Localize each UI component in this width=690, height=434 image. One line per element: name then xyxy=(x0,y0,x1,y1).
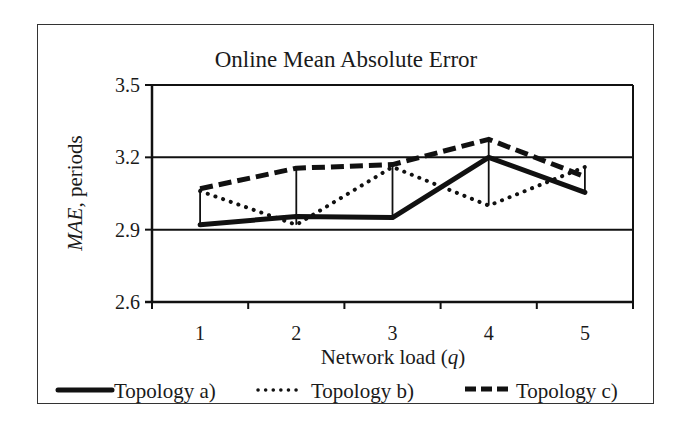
legend-label: Topology b) xyxy=(311,379,414,403)
y-axis-tick-labels: 2.62.93.23.5 xyxy=(115,74,140,313)
x-tick-label: 3 xyxy=(388,322,398,344)
legend: Topology a) Topology b) Topology c) xyxy=(58,379,618,403)
x-axis-label-variable: q xyxy=(448,345,459,369)
legend-item-topology-c: Topology c) xyxy=(465,379,618,403)
axes xyxy=(145,84,633,309)
x-axis-tick-labels: 12345 xyxy=(195,322,590,344)
x-tick-label: 1 xyxy=(195,322,205,344)
x-axis-label-prefix: Network load ( xyxy=(321,345,448,369)
y-tick-label: 3.5 xyxy=(115,74,140,96)
legend-item-topology-a: Topology a) xyxy=(58,379,216,403)
y-axis-label: MAE, periods xyxy=(63,135,87,251)
line-chart: Online Mean Absolute Error 2.62.93.23.5 … xyxy=(0,0,690,434)
x-tick-label: 2 xyxy=(291,322,301,344)
y-axis-label-variable: MAE xyxy=(63,207,87,251)
y-tick-label: 2.9 xyxy=(115,219,140,241)
y-tick-label: 3.2 xyxy=(115,146,140,168)
legend-item-topology-b: Topology b) xyxy=(258,379,414,403)
y-tick-label: 2.6 xyxy=(115,291,140,313)
x-tick-label: 5 xyxy=(580,322,590,344)
x-axis-label-suffix: ) xyxy=(458,345,465,369)
chart-title: Online Mean Absolute Error xyxy=(215,47,478,72)
x-tick-label: 4 xyxy=(484,322,494,344)
x-axis-label: Network load (q) xyxy=(321,345,466,369)
legend-label: Topology c) xyxy=(516,379,618,403)
legend-label: Topology a) xyxy=(114,379,216,403)
y-axis-label-suffix: , periods xyxy=(63,135,87,207)
